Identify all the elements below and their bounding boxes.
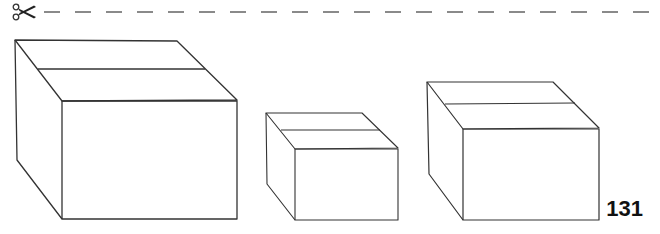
large-box xyxy=(15,40,237,219)
page-number: 131 xyxy=(606,196,643,222)
medium-box xyxy=(427,82,599,220)
small-box xyxy=(266,113,398,220)
boxes-illustration xyxy=(0,0,660,234)
tape-line xyxy=(445,103,575,104)
